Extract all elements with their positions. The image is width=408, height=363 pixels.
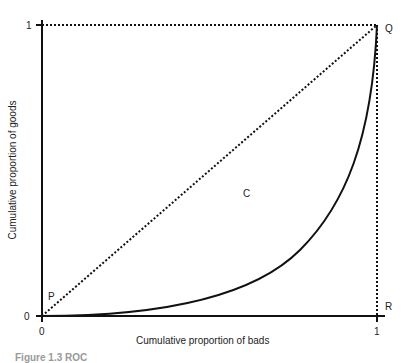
x-tick-label-0: 0 bbox=[39, 326, 45, 337]
area-label-c: C bbox=[243, 188, 250, 199]
diagonal-line bbox=[42, 25, 377, 316]
y-tick-label-1: 1 bbox=[26, 20, 32, 31]
point-label-r: R bbox=[385, 301, 392, 312]
y-tick-label-0: 0 bbox=[24, 311, 30, 322]
x-tick-label-1: 1 bbox=[374, 326, 380, 337]
x-axis-label: Cumulative proportion of bads bbox=[136, 335, 269, 346]
y-axis-label: Cumulative proportion of goods bbox=[7, 101, 18, 240]
point-label-p: P bbox=[48, 291, 55, 302]
figure-caption: Figure 1.3 ROC bbox=[15, 352, 87, 363]
point-label-q: Q bbox=[385, 23, 393, 34]
